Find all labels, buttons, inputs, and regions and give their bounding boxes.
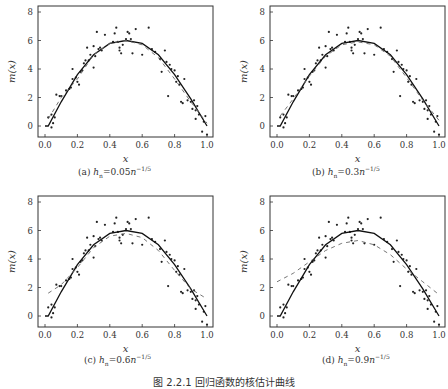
data-point bbox=[71, 68, 73, 70]
data-point bbox=[352, 242, 354, 244]
data-point bbox=[401, 64, 403, 66]
data-point bbox=[161, 261, 163, 263]
y-tick-label: 2 bbox=[260, 283, 265, 293]
y-tick-label: 6 bbox=[28, 36, 33, 46]
data-point bbox=[325, 256, 327, 258]
data-point bbox=[84, 59, 86, 61]
data-point bbox=[347, 217, 349, 219]
data-point bbox=[428, 295, 430, 297]
data-point bbox=[316, 249, 318, 251]
data-point bbox=[328, 31, 330, 33]
true-curve bbox=[277, 41, 439, 127]
data-point bbox=[183, 268, 185, 270]
data-point bbox=[315, 252, 317, 254]
data-point bbox=[380, 27, 382, 29]
data-point bbox=[418, 289, 420, 291]
data-point bbox=[174, 259, 176, 261]
x-tick-label: 0.0 bbox=[270, 140, 284, 150]
x-tick-label: 0.4 bbox=[103, 330, 117, 340]
data-point bbox=[303, 68, 305, 70]
data-point bbox=[325, 45, 327, 47]
data-point bbox=[396, 239, 398, 241]
data-point bbox=[135, 28, 137, 30]
data-point bbox=[60, 285, 62, 287]
x-tick-label: 0.8 bbox=[168, 140, 182, 150]
data-point bbox=[350, 49, 352, 51]
y-tick-label: 2 bbox=[28, 93, 33, 103]
data-point bbox=[71, 258, 73, 260]
data-point bbox=[182, 102, 184, 104]
data-point bbox=[89, 244, 91, 246]
data-point bbox=[120, 52, 122, 54]
data-point bbox=[131, 52, 133, 54]
panel-d: 0.00.20.40.60.81.002468xm(x) (d) hn=0.9n… bbox=[232, 190, 448, 370]
figure-caption: 图 2.2.1 回归函数的核估计曲线 bbox=[0, 374, 448, 389]
x-tick-label: 0.4 bbox=[335, 140, 349, 150]
data-point bbox=[436, 115, 438, 117]
data-point bbox=[47, 306, 49, 308]
data-point bbox=[118, 49, 120, 51]
y-tick-label: 8 bbox=[28, 7, 33, 17]
data-point bbox=[186, 99, 188, 101]
data-point bbox=[409, 75, 411, 77]
data-point bbox=[206, 323, 208, 325]
y-tick-label: 4 bbox=[28, 254, 33, 264]
data-point bbox=[401, 254, 403, 256]
data-point bbox=[415, 268, 417, 270]
data-point bbox=[71, 268, 73, 270]
plot-frame bbox=[38, 196, 213, 327]
data-point bbox=[396, 49, 398, 51]
data-point bbox=[321, 54, 323, 56]
data-point bbox=[128, 222, 130, 224]
data-point bbox=[93, 235, 95, 237]
data-point bbox=[414, 292, 416, 294]
data-point bbox=[409, 265, 411, 267]
data-point bbox=[292, 95, 294, 97]
plot-frame bbox=[38, 6, 213, 137]
data-point bbox=[310, 84, 312, 86]
data-point bbox=[122, 44, 124, 46]
data-point bbox=[93, 256, 95, 258]
data-point bbox=[397, 61, 399, 63]
caption-c: (c) hn=0.6n−1/5 bbox=[84, 353, 151, 367]
data-point bbox=[310, 274, 312, 276]
caption-b: (b) hn=0.3n−1/5 bbox=[312, 165, 380, 179]
data-point bbox=[336, 34, 338, 36]
data-point bbox=[282, 304, 284, 306]
y-tick-label: 6 bbox=[260, 36, 265, 46]
data-point bbox=[328, 221, 330, 223]
data-point bbox=[380, 217, 382, 219]
data-point bbox=[114, 32, 116, 34]
data-point bbox=[130, 228, 132, 230]
data-point bbox=[350, 47, 352, 49]
data-point bbox=[55, 284, 57, 286]
data-point bbox=[94, 55, 96, 57]
data-point bbox=[367, 218, 369, 220]
x-tick-label: 1.0 bbox=[200, 140, 214, 150]
data-point bbox=[282, 126, 284, 128]
data-point bbox=[284, 122, 286, 124]
data-point bbox=[186, 289, 188, 291]
data-point bbox=[175, 271, 177, 273]
data-point bbox=[114, 222, 116, 224]
data-point bbox=[201, 131, 203, 133]
data-point bbox=[164, 239, 166, 241]
data-point bbox=[93, 66, 95, 68]
data-point bbox=[354, 44, 356, 46]
data-point bbox=[350, 237, 352, 239]
x-tick-label: 0.6 bbox=[367, 140, 381, 150]
chart-b: 0.00.20.40.60.81.002468xm(x) bbox=[232, 0, 448, 180]
data-point bbox=[71, 78, 73, 80]
x-tick-label: 0.0 bbox=[270, 330, 284, 340]
data-point bbox=[362, 38, 364, 40]
data-point bbox=[191, 298, 193, 300]
data-point bbox=[331, 47, 333, 49]
data-point bbox=[196, 105, 198, 107]
data-point bbox=[191, 108, 193, 110]
data-point bbox=[336, 224, 338, 226]
data-point bbox=[165, 61, 167, 63]
data-point bbox=[206, 133, 208, 135]
data-point bbox=[303, 78, 305, 80]
data-point bbox=[104, 34, 106, 36]
x-tick-label: 0.8 bbox=[400, 330, 414, 340]
